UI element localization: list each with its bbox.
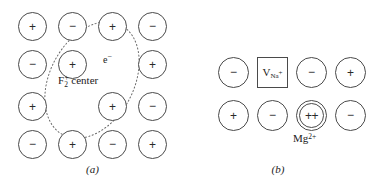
lattice-ion: − xyxy=(18,130,47,159)
electron-label: e− xyxy=(103,53,112,65)
figure-container: + − + − − + + + + − xyxy=(0,0,371,186)
ion-sign: + xyxy=(69,139,76,151)
ion-sign: + xyxy=(109,101,116,113)
ion-sign: − xyxy=(269,109,276,121)
ion-sign: − xyxy=(69,20,76,32)
mg-symbol: Mg xyxy=(293,132,308,144)
lattice-ion: + xyxy=(218,100,249,131)
lattice-ion: − xyxy=(138,92,167,121)
lattice-ion: + xyxy=(335,57,366,88)
lattice-ion: + xyxy=(138,50,167,79)
f2-center-label: F2+ center xyxy=(58,75,98,86)
f-superscript: + xyxy=(64,73,68,82)
ion-sign: + xyxy=(29,21,36,33)
ion-sign: − xyxy=(29,58,36,70)
lattice-ion: − xyxy=(98,130,127,159)
lattice-ion: − xyxy=(58,12,87,41)
lattice-ion: + xyxy=(98,92,127,121)
ion-sign: + xyxy=(69,59,76,71)
lattice-ion: − xyxy=(18,50,47,79)
lattice-ion: − xyxy=(257,100,288,131)
ion-sign: − xyxy=(149,20,156,32)
lattice-ion: + xyxy=(58,130,87,159)
ion-sign: − xyxy=(109,138,116,150)
ion-sign: − xyxy=(29,138,36,150)
ion-sign: + xyxy=(149,139,156,151)
lattice-vacancy-site xyxy=(58,92,87,121)
magnesium-ion: ++ xyxy=(296,100,327,131)
vacancy-subscript: Na xyxy=(270,72,278,80)
panel-b: − VNa+ − + + − ++ − Mg2+ (b) xyxy=(185,0,371,186)
vacancy-superscript: + xyxy=(279,69,283,77)
lattice-ion: − xyxy=(138,12,167,41)
lattice-ion: + xyxy=(98,12,127,41)
mg-charge: 2+ xyxy=(308,132,316,141)
sodium-vacancy-box: VNa+ xyxy=(257,57,288,88)
lattice-ion: − xyxy=(296,57,327,88)
panel-a: + − + − − + + + + − xyxy=(0,0,185,186)
ion-sign: + xyxy=(149,59,156,71)
magnesium-label: Mg2+ xyxy=(293,133,316,144)
lattice-ion: − xyxy=(335,100,366,131)
panel-a-caption: (a) xyxy=(0,163,185,175)
sodium-vacancy-label: VNa+ xyxy=(262,67,282,78)
ion-sign: + xyxy=(347,67,354,79)
ion-sign: ++ xyxy=(305,110,318,122)
lattice-ion: + xyxy=(138,130,167,159)
center-word: center xyxy=(69,74,99,86)
ion-sign: + xyxy=(230,110,237,122)
ion-sign: + xyxy=(29,101,36,113)
electron-charge: − xyxy=(107,52,112,61)
lattice-ion: + xyxy=(18,92,47,121)
lattice-ion: + xyxy=(18,12,47,41)
ion-sign: − xyxy=(347,109,354,121)
ion-sign: + xyxy=(109,21,116,33)
lattice-ion: − xyxy=(218,57,249,88)
ion-sign: − xyxy=(308,66,315,78)
ion-sign: − xyxy=(230,66,237,78)
ion-sign: − xyxy=(149,100,156,112)
panel-b-caption: (b) xyxy=(185,163,371,175)
